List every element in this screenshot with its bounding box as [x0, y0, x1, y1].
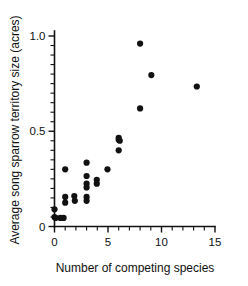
x-tick-label: 5 [105, 236, 111, 248]
axes [55, 31, 216, 227]
data-point [62, 194, 68, 200]
data-point [104, 166, 110, 172]
y-tick-label: 0 [39, 221, 45, 233]
data-point [62, 166, 68, 172]
data-point [60, 215, 66, 221]
x-axis-title: Number of competing species [56, 261, 215, 275]
data-point [51, 206, 57, 212]
data-point [84, 160, 90, 166]
data-point [137, 105, 143, 111]
data-point [194, 83, 200, 89]
y-axis-tick-labels: 00.51.0 [30, 30, 46, 233]
data-point [72, 198, 78, 204]
data-point [148, 72, 154, 78]
y-tick-label: 1.0 [30, 30, 46, 42]
data-points [51, 41, 200, 222]
plot-canvas: 00.51.0 051015 Number of competing speci… [0, 0, 248, 286]
y-axis-title: Average song sparrow territory size (acr… [8, 15, 22, 244]
x-axis-ticks [55, 227, 216, 233]
x-tick-label: 10 [155, 236, 168, 248]
y-tick-label: 0.5 [30, 125, 46, 137]
x-tick-label: 15 [209, 236, 222, 248]
y-axis-ticks [49, 36, 55, 227]
data-point [84, 173, 90, 179]
scatter-chart-figure: 00.51.0 051015 Number of competing speci… [0, 0, 248, 286]
data-point [117, 138, 123, 144]
data-point [116, 147, 122, 153]
data-point [137, 41, 143, 47]
data-point [94, 181, 100, 187]
data-point [84, 198, 90, 204]
x-axis-tick-labels: 051015 [51, 236, 221, 248]
data-point [62, 200, 68, 206]
data-point [84, 184, 90, 190]
x-tick-label: 0 [51, 236, 57, 248]
